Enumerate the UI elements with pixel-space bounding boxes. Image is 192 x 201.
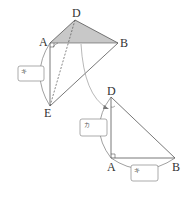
- point-label-e-top: E: [44, 106, 51, 120]
- angle-arc-d-bottom: [111, 106, 115, 107]
- point-label-d-top: D: [72, 6, 81, 20]
- bottom-figure: カ キ D A B: [80, 84, 180, 181]
- right-angle-mark-a-bottom: [111, 154, 115, 158]
- point-label-a-bottom: A: [107, 160, 116, 174]
- answer-box-ki-bottom-label: キ: [134, 166, 140, 173]
- edge-db-bottom: [111, 97, 175, 158]
- diagram-canvas: キ D A B E カ キ D A B: [0, 0, 192, 201]
- unfold-arrow: [81, 44, 109, 109]
- point-label-a-top: A: [39, 35, 48, 49]
- unfold-arrow-curve: [81, 44, 107, 108]
- top-figure: キ D A B E: [18, 6, 128, 120]
- answer-box-ki-top-label: キ: [21, 67, 27, 74]
- point-label-b-bottom: B: [172, 160, 180, 174]
- answer-box-ka-label: カ: [84, 121, 90, 128]
- shaded-face-adb: [50, 20, 118, 43]
- point-label-b-top: B: [120, 36, 128, 50]
- point-label-d-bottom: D: [107, 84, 116, 98]
